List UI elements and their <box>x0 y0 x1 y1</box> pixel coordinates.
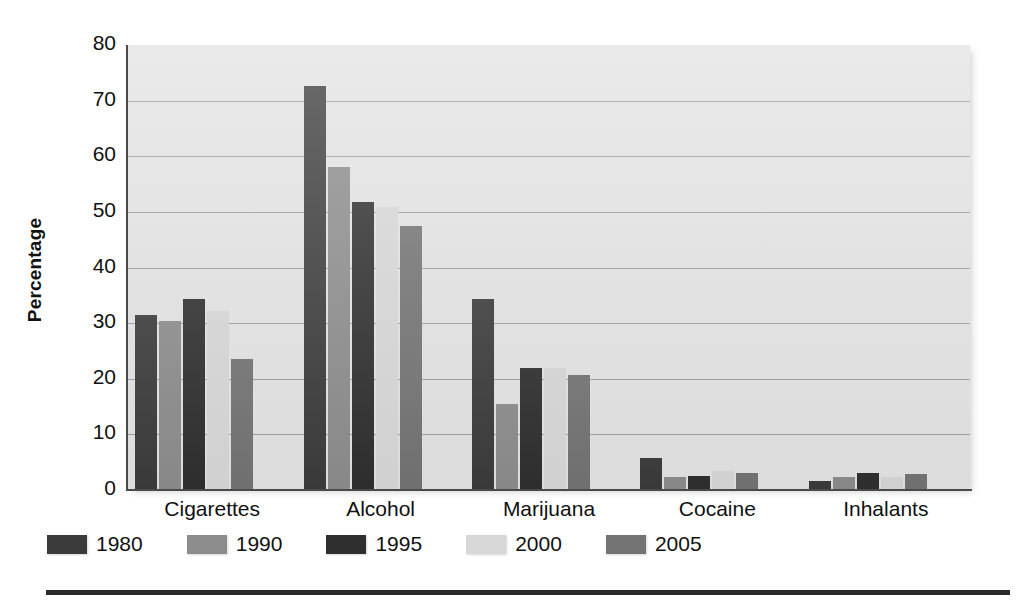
legend-label-1980: 1980 <box>96 532 143 556</box>
x-tick-label-inhalants: Inhalants <box>802 497 970 521</box>
y-axis-title: Percentage <box>22 175 48 365</box>
legend-label-1995: 1995 <box>375 532 422 556</box>
legend-swatch-2005 <box>606 535 646 554</box>
x-axis-tick-labels: CigarettesAlcoholMarijuanaCocaineInhalan… <box>128 0 970 540</box>
y-tick-label-0: 0 <box>72 476 116 500</box>
bar-chart-figure: Percentage 01020304050607080 CigarettesA… <box>0 0 1022 607</box>
y-tick-label-40: 40 <box>72 254 116 278</box>
x-tick-label-marijuana: Marijuana <box>465 497 633 521</box>
legend-label-2000: 2000 <box>515 532 562 556</box>
legend-swatch-1980 <box>47 535 87 554</box>
legend-item-1990[interactable]: 1990 <box>187 532 283 556</box>
legend-swatch-1995 <box>326 535 366 554</box>
legend-item-2000[interactable]: 2000 <box>466 532 562 556</box>
legend-label-1990: 1990 <box>236 532 283 556</box>
y-tick-label-30: 30 <box>72 309 116 333</box>
y-tick-label-60: 60 <box>72 142 116 166</box>
y-tick-label-20: 20 <box>72 365 116 389</box>
legend-swatch-1990 <box>187 535 227 554</box>
x-tick-label-alcohol: Alcohol <box>296 497 464 521</box>
y-tick-label-70: 70 <box>72 87 116 111</box>
chart-legend: 19801990199520002005 <box>47 530 746 558</box>
x-tick-label-cocaine: Cocaine <box>633 497 801 521</box>
legend-item-1995[interactable]: 1995 <box>326 532 422 556</box>
legend-item-2005[interactable]: 2005 <box>606 532 702 556</box>
legend-swatch-2000 <box>466 535 506 554</box>
y-tick-label-50: 50 <box>72 198 116 222</box>
y-axis-tick-labels: 01020304050607080 <box>60 45 116 490</box>
bottom-divider-rule <box>46 590 1010 595</box>
x-tick-label-cigarettes: Cigarettes <box>128 497 296 521</box>
legend-label-2005: 2005 <box>655 532 702 556</box>
y-axis-title-text: Percentage <box>24 218 46 322</box>
legend-item-1980[interactable]: 1980 <box>47 532 143 556</box>
y-tick-label-80: 80 <box>72 31 116 55</box>
y-tick-label-10: 10 <box>72 420 116 444</box>
